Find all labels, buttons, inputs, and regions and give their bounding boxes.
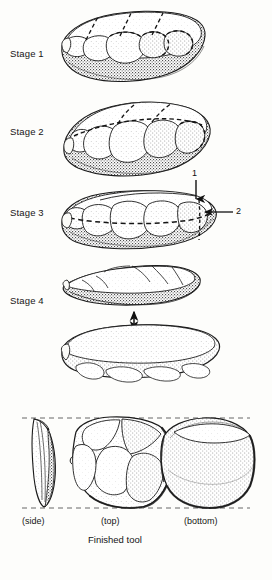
view-label-side: (side) [22, 516, 45, 526]
view-label-top: (top) [101, 516, 120, 526]
stage-2-label: Stage 2 [10, 126, 44, 137]
stage-4-label: Stage 4 [10, 295, 44, 306]
figure-artwork [0, 0, 272, 580]
stage-3-label: Stage 3 [10, 207, 44, 218]
finished-tool-bottom-view-drawing [161, 418, 255, 508]
finished-tool-side-view-drawing [32, 419, 55, 507]
figure-caption: Finished tool [88, 534, 142, 545]
callout-number-1: 1 [192, 168, 197, 178]
view-label-bottom: (bottom) [184, 516, 218, 526]
stage-4-core-drawing [61, 325, 219, 382]
stage-1-drawing [62, 11, 205, 81]
stage-2-drawing [64, 102, 210, 176]
levallois-technique-figure: Stage 1 Stage 2 Stage 3 Stage 4 1 2 (sid… [0, 0, 272, 580]
finished-tool-top-view-drawing [70, 417, 172, 508]
stage-4-flake-drawing [63, 266, 200, 305]
callout-number-2: 2 [236, 206, 241, 216]
stage-1-label: Stage 1 [10, 48, 44, 59]
stage-3-drawing [62, 180, 233, 249]
